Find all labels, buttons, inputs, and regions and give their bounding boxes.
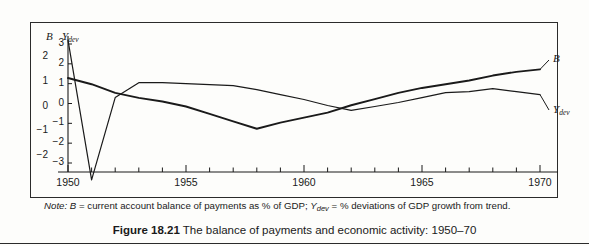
bottom-divider [0, 243, 589, 244]
figure-caption: Figure 18.21 The balance of payments and… [0, 224, 589, 236]
figure-page: B Ydev 210−1−2 3210−1−2−3 19501955196019… [0, 0, 589, 246]
figure-note: Note: B = current account balance of pay… [44, 200, 564, 213]
caption-label: Figure 18.21 [113, 224, 180, 236]
caption-text: The balance of payments and economic act… [183, 224, 476, 236]
note-body-a: = current account balance of payments as… [76, 200, 310, 211]
leader-line-b [540, 60, 549, 69]
note-prefix: Note: [44, 200, 67, 211]
note-body-c: = % deviations of GDP growth from trend. [329, 200, 511, 211]
leader-line-ydev [540, 95, 549, 110]
series-line-ydev [68, 40, 540, 180]
note-symbol-ydev: Ydev [310, 200, 329, 211]
